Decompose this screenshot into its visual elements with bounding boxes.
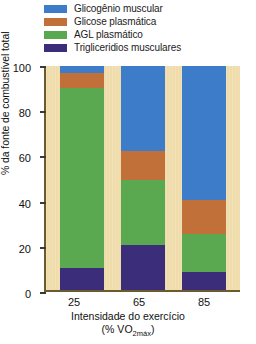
legend-label-agl-plasmatico: AGL plasmático: [74, 30, 143, 40]
x-axis-label-v: V: [117, 323, 124, 335]
y-tick-label-100: 100: [13, 62, 31, 74]
segment-triglicerideos-musculares: [60, 268, 104, 290]
segment-glicogenio-muscular: [60, 66, 104, 73]
legend-item-triglicerideos-musculares: Trigliceridios musculares: [44, 42, 254, 54]
legend-item-glicogenio-muscular: Glicogênio muscular: [44, 3, 254, 15]
segment-agl-plasmatico: [182, 234, 226, 272]
chart-legend: Glicogênio muscular Glicose plasmática A…: [44, 3, 254, 55]
legend-swatch-purple: [44, 44, 67, 52]
legend-item-glicose-plasmatica: Glicose plasmática: [44, 16, 254, 28]
legend-label-glicogenio-muscular: Glicogênio muscular: [74, 4, 163, 14]
legend-swatch-orange: [44, 18, 67, 26]
x-tick-label-85: 85: [174, 296, 234, 308]
fuel-source-chart: Glicogênio muscular Glicose plasmática A…: [0, 0, 256, 344]
x-axis-label-line2: (% VO2máx): [0, 323, 256, 340]
segment-triglicerideos-musculares: [121, 245, 165, 290]
y-tick-label-20: 20: [19, 243, 31, 255]
segment-glicose-plasmatica: [121, 151, 165, 180]
x-axis-label-o: O: [124, 323, 132, 335]
legend-item-agl-plasmatico: AGL plasmático: [44, 29, 254, 41]
y-tick-label-0: 0: [25, 288, 31, 300]
y-tick-label-40: 40: [19, 198, 31, 210]
x-tick-label-65: 65: [109, 296, 169, 308]
x-axis-label-close: ): [151, 323, 155, 335]
segment-glicose-plasmatica: [60, 73, 104, 89]
legend-label-glicose-plasmatica: Glicose plasmática: [74, 17, 156, 27]
legend-label-triglicerideos-musculares: Trigliceridios musculares: [74, 43, 181, 53]
y-tick-label-60: 60: [19, 152, 31, 164]
stacked-bar-25: [60, 66, 104, 290]
segment-agl-plasmatico: [121, 180, 165, 245]
x-axis-label-subscript: 2máx: [133, 329, 151, 338]
segment-glicose-plasmatica: [182, 200, 226, 234]
y-tick-label-80: 80: [19, 107, 31, 119]
segment-glicogenio-muscular: [121, 66, 165, 151]
y-axis-label: % da fonte de combustível total: [0, 32, 11, 175]
legend-swatch-blue: [44, 5, 67, 13]
legend-swatch-green: [44, 31, 67, 39]
stacked-bar-85: [182, 66, 226, 290]
plot-area: 100 80 60 40 20 0: [44, 66, 240, 292]
stacked-bar-65: [121, 66, 165, 290]
x-axis-label-line1: Intensidade do exercício: [71, 310, 185, 322]
segment-triglicerideos-musculares: [182, 272, 226, 290]
segment-agl-plasmatico: [60, 88, 104, 267]
x-axis-label-prefix: (%: [102, 323, 118, 335]
x-axis-label: Intensidade do exercício (% VO2máx): [0, 310, 256, 340]
y-tick-0: 0: [40, 292, 46, 294]
bar-group: [46, 66, 240, 290]
x-tick-label-25: 25: [44, 296, 104, 308]
segment-glicogenio-muscular: [182, 66, 226, 200]
